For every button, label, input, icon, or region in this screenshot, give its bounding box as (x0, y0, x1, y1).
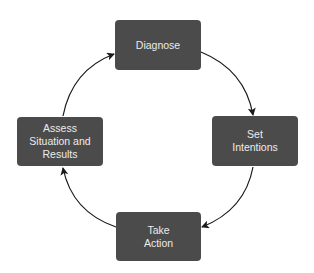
arrow-take-action-to-assess (63, 168, 116, 227)
arrow-set-intentions-to-take-action (202, 167, 253, 227)
node-assess-situation-and-results: Assess Situation and Results (17, 117, 103, 166)
cycle-diagram: Diagnose Set Intentions Take Action Asse… (0, 0, 314, 273)
node-diagnose: Diagnose (115, 20, 201, 70)
arrow-diagnose-to-set-intentions (201, 52, 253, 115)
node-set-intentions: Set Intentions (212, 116, 298, 166)
arrow-assess-to-diagnose (63, 54, 114, 116)
node-take-action: Take Action (116, 212, 201, 261)
